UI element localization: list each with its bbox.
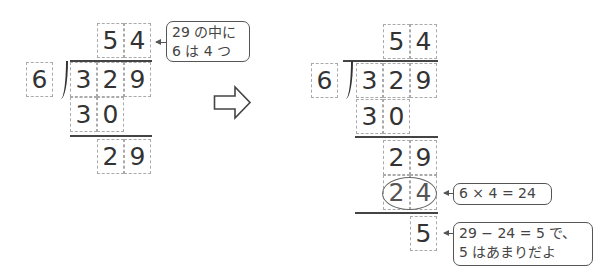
right-product-digit: 0 — [383, 99, 410, 134]
division-bracket — [56, 61, 68, 99]
pointer-arrow-icon — [444, 233, 453, 234]
right-remainder-digit: 2 — [383, 140, 410, 175]
callout-remainder: 29 − 24 = 5 で、 5 はあまりだよ — [453, 222, 593, 266]
callout-product: 6 × 4 = 24 — [453, 183, 552, 205]
left-dividend-digit: 2 — [97, 62, 124, 97]
left-product-digit: 0 — [97, 97, 124, 132]
right-final-remainder: 5 — [410, 216, 437, 251]
right-product-digit: 3 — [356, 99, 383, 134]
subtraction-line — [355, 212, 438, 214]
pointer-arrow-icon — [156, 42, 166, 43]
right-dividend-digit: 3 — [356, 63, 383, 98]
highlight-ellipse — [382, 177, 437, 210]
pointer-arrow-icon — [444, 193, 453, 194]
division-bracket — [341, 61, 353, 99]
left-quotient-digit: 4 — [124, 23, 151, 58]
left-product-digit: 3 — [70, 97, 97, 132]
callout-hint: 29 の中に 6 は 4 つ — [166, 21, 250, 62]
right-quotient-digit: 5 — [383, 24, 410, 59]
callout-line: 29 − 24 = 5 で、 — [459, 224, 587, 243]
left-divisor: 6 — [26, 62, 53, 97]
right-quotient-digit: 4 — [410, 24, 437, 59]
callout-line: 6 は 4 つ — [172, 42, 244, 61]
callout-line: 5 はあまりだよ — [459, 243, 587, 262]
left-dividend-digit: 9 — [124, 62, 151, 97]
right-dividend-digit: 2 — [383, 63, 410, 98]
right-remainder-digit: 9 — [410, 140, 437, 175]
left-remainder-digit: 2 — [97, 139, 124, 174]
division-bar — [343, 60, 438, 62]
right-dividend-digit: 9 — [410, 63, 437, 98]
left-remainder-digit: 9 — [124, 139, 151, 174]
subtraction-line — [355, 136, 438, 138]
subtraction-line — [70, 135, 152, 137]
left-dividend-digit: 3 — [70, 62, 97, 97]
callout-line: 29 の中に — [172, 23, 244, 42]
right-divisor: 6 — [311, 63, 338, 98]
left-quotient-digit: 5 — [97, 23, 124, 58]
callout-line: 6 × 4 = 24 — [459, 184, 546, 203]
right-arrow-icon — [213, 85, 253, 120]
